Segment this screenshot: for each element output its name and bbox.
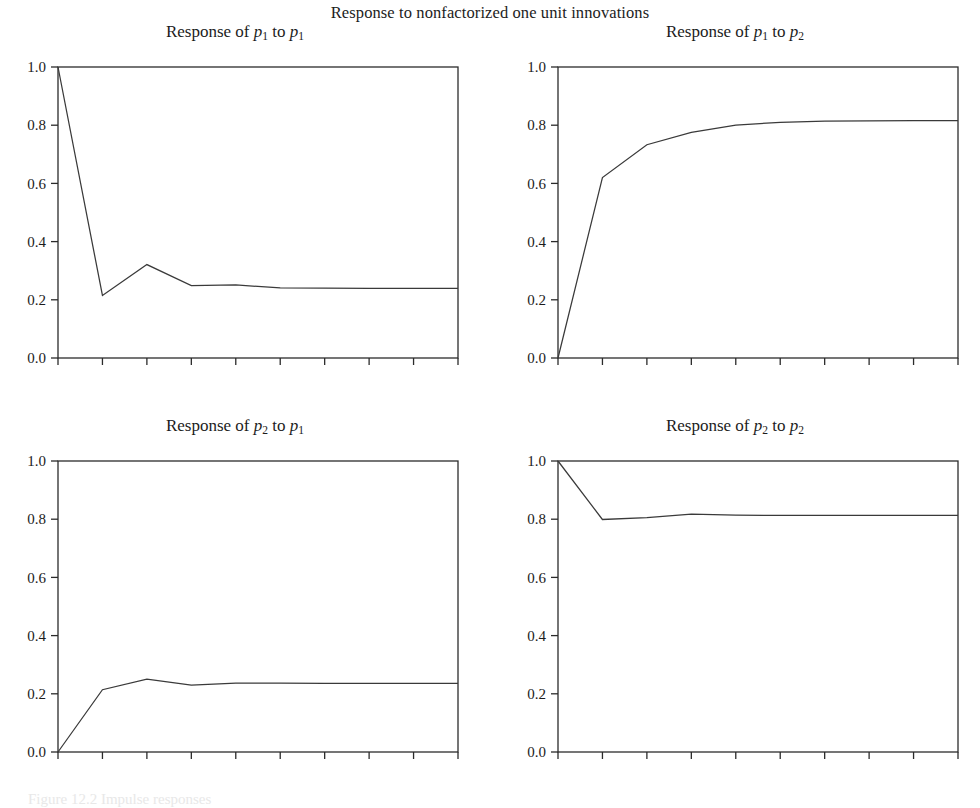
y-tick-label: 0.4 (527, 234, 546, 250)
x-tick-label: 9 (410, 369, 418, 370)
x-tick-label: 2 (599, 763, 607, 764)
x-tick-label: 9 (410, 763, 418, 764)
x-tick-label: 2 (99, 763, 107, 764)
x-tick-label: 1 (54, 369, 62, 370)
y-tick-label: 0.0 (527, 350, 546, 366)
x-tick-label: 4 (188, 763, 196, 764)
y-tick-label: 0.4 (27, 628, 46, 644)
y-tick-label: 0.4 (527, 628, 546, 644)
x-tick-label: 4 (688, 369, 696, 370)
x-tick-label: 7 (821, 369, 829, 370)
y-tick-label: 0.0 (27, 350, 46, 366)
y-tick-label: 0.2 (527, 292, 546, 308)
panel-p1-p1: Response of p1 to p1 0.00.20.40.60.81.01… (0, 22, 470, 370)
plot-area-p2-p2: 0.00.20.40.60.81.012345678910 (500, 416, 970, 764)
y-tick-label: 0.0 (527, 744, 546, 760)
x-tick-label: 9 (910, 369, 918, 370)
x-tick-label: 2 (599, 369, 607, 370)
impulse-response-line (558, 461, 958, 519)
x-tick-label: 9 (910, 763, 918, 764)
y-tick-label: 0.2 (27, 686, 46, 702)
y-tick-label: 1.0 (527, 453, 546, 469)
y-tick-label: 0.0 (27, 744, 46, 760)
impulse-response-line (58, 679, 458, 752)
y-tick-label: 0.8 (27, 511, 46, 527)
x-tick-label: 6 (776, 763, 784, 764)
x-tick-label: 6 (276, 369, 284, 370)
x-tick-label: 3 (643, 369, 651, 370)
x-tick-label: 8 (365, 763, 373, 764)
x-tick-label: 1 (554, 763, 562, 764)
plot-area-p1-p1: 0.00.20.40.60.81.012345678910 (0, 22, 470, 370)
y-tick-label: 1.0 (27, 453, 46, 469)
y-tick-label: 0.2 (527, 686, 546, 702)
x-tick-label: 5 (732, 369, 740, 370)
y-tick-label: 0.6 (527, 176, 546, 192)
y-tick-label: 0.8 (527, 117, 546, 133)
x-tick-label: 10 (951, 763, 966, 764)
x-tick-label: 8 (865, 763, 873, 764)
x-tick-label: 4 (188, 369, 196, 370)
figure-caption: Figure 12.2 Impulse responses (28, 791, 211, 808)
x-tick-label: 3 (643, 763, 651, 764)
x-tick-label: 6 (776, 369, 784, 370)
x-tick-label: 5 (232, 369, 240, 370)
x-tick-label: 2 (99, 369, 107, 370)
panel-p2-p1: Response of p2 to p1 0.00.20.40.60.81.01… (0, 416, 470, 764)
impulse-response-line (558, 121, 958, 358)
x-tick-label: 10 (951, 369, 966, 370)
y-tick-label: 0.6 (27, 570, 46, 586)
x-tick-label: 8 (365, 369, 373, 370)
x-tick-label: 10 (451, 763, 466, 764)
y-tick-label: 1.0 (527, 59, 546, 75)
plot-area-p1-p2: 0.00.20.40.60.81.012345678910 (500, 22, 970, 370)
x-tick-label: 7 (321, 763, 329, 764)
x-tick-label: 4 (688, 763, 696, 764)
panel-p2-p2: Response of p2 to p2 0.00.20.40.60.81.01… (500, 416, 970, 764)
x-tick-label: 7 (321, 369, 329, 370)
x-tick-label: 3 (143, 369, 151, 370)
x-tick-label: 1 (554, 369, 562, 370)
figure-title: Response to nonfactorized one unit innov… (0, 3, 980, 23)
y-tick-label: 0.6 (527, 570, 546, 586)
x-tick-label: 5 (732, 763, 740, 764)
x-tick-label: 6 (276, 763, 284, 764)
y-tick-label: 0.8 (27, 117, 46, 133)
y-tick-label: 1.0 (27, 59, 46, 75)
x-tick-label: 10 (451, 369, 466, 370)
y-tick-label: 0.8 (527, 511, 546, 527)
x-tick-label: 7 (821, 763, 829, 764)
impulse-response-line (58, 67, 458, 295)
x-tick-label: 8 (865, 369, 873, 370)
panel-p1-p2: Response of p1 to p2 0.00.20.40.60.81.01… (500, 22, 970, 370)
x-tick-label: 1 (54, 763, 62, 764)
y-tick-label: 0.6 (27, 176, 46, 192)
x-tick-label: 5 (232, 763, 240, 764)
y-tick-label: 0.4 (27, 234, 46, 250)
y-tick-label: 0.2 (27, 292, 46, 308)
x-tick-label: 3 (143, 763, 151, 764)
plot-area-p2-p1: 0.00.20.40.60.81.012345678910 (0, 416, 470, 764)
